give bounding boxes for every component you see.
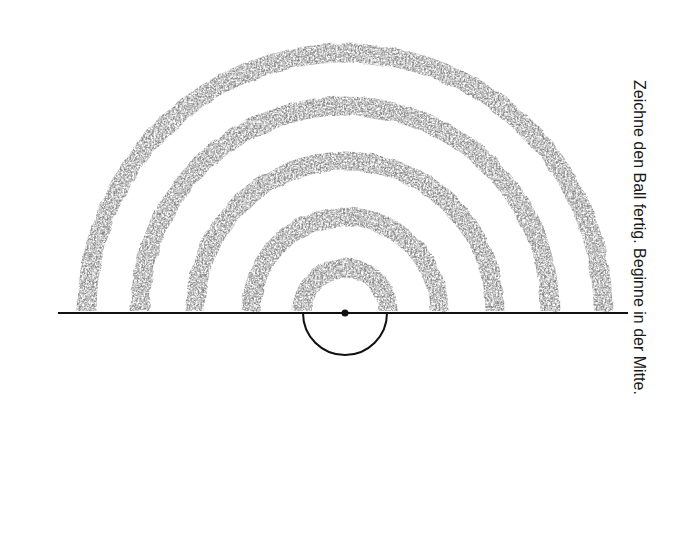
crayon-arc-5 [302,268,388,311]
instruction-text: Zeichne den Ball fertig. Beginne in der … [630,80,648,395]
rainbow-ball-drawing [0,0,675,536]
crayon-arcs [87,53,603,311]
center-dot [342,310,349,317]
ball-half-circle [303,313,387,355]
crayon-arc-3 [195,161,495,311]
